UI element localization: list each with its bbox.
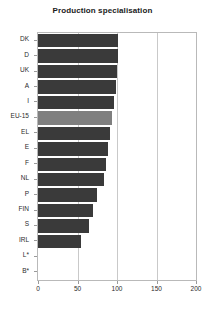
x-axis-label: 50 (66, 285, 90, 292)
bar-row (38, 126, 196, 141)
bar-eu-15 (38, 111, 112, 124)
x-axis-label: 100 (105, 285, 129, 292)
bar-row (38, 187, 196, 202)
bar-nl (38, 173, 104, 186)
bar-e (38, 142, 108, 155)
bar-uk (38, 65, 117, 78)
x-axis-labels: 050100150200 (0, 285, 205, 297)
y-axis-label: D (0, 52, 34, 59)
plot-area (37, 32, 197, 281)
bar-row (38, 64, 196, 79)
bar-row (38, 203, 196, 218)
bar-i (38, 96, 114, 109)
bar-p (38, 188, 97, 201)
x-axis-label: 200 (184, 285, 205, 292)
chart-title: Production specialisation (0, 6, 205, 15)
y-axis-labels: DKDUKAIEU-15ELEFNLPFINSIRLL*B* (0, 32, 34, 281)
bar-row (38, 172, 196, 187)
bar-a (38, 80, 116, 93)
x-tick-200 (196, 281, 197, 284)
y-axis-label: F (0, 160, 34, 167)
y-axis-label: S (0, 221, 34, 228)
bar-el (38, 127, 110, 140)
y-axis-label: DK (0, 36, 34, 43)
bar-row (38, 234, 196, 249)
y-axis-label: L* (0, 252, 34, 259)
bar-row (38, 265, 196, 280)
x-tick-150 (157, 281, 158, 284)
bar-row (38, 218, 196, 233)
bar-row (38, 157, 196, 172)
y-axis-label: I (0, 98, 34, 105)
bar-row (38, 95, 196, 110)
bar-row (38, 249, 196, 264)
y-axis-label: FIN (0, 206, 34, 213)
x-tick-100 (117, 281, 118, 284)
bar-series (38, 33, 196, 280)
y-axis-label: B* (0, 268, 34, 275)
bar-irl (38, 235, 81, 248)
bar-row (38, 79, 196, 94)
y-axis-label: UK (0, 67, 34, 74)
x-axis-label: 0 (26, 285, 50, 292)
y-axis-label: A (0, 83, 34, 90)
y-axis-label: EU-15 (0, 113, 34, 120)
bar-dk (38, 34, 118, 47)
bar-row (38, 141, 196, 156)
y-axis-label: EL (0, 129, 34, 136)
bar-row (38, 33, 196, 48)
y-axis-label: P (0, 191, 34, 198)
chart-container: Production specialisation DKDUKAIEU-15EL… (0, 0, 205, 313)
bar-row (38, 48, 196, 63)
x-tick-0 (38, 281, 39, 284)
y-axis-label: NL (0, 175, 34, 182)
bar-fin (38, 204, 93, 217)
bar-row (38, 110, 196, 125)
y-axis-label: IRL (0, 237, 34, 244)
x-axis-label: 150 (145, 285, 169, 292)
y-axis-label: E (0, 144, 34, 151)
bar-s (38, 219, 89, 232)
bar-d (38, 49, 118, 62)
bar-f (38, 158, 106, 171)
x-tick-50 (78, 281, 79, 284)
